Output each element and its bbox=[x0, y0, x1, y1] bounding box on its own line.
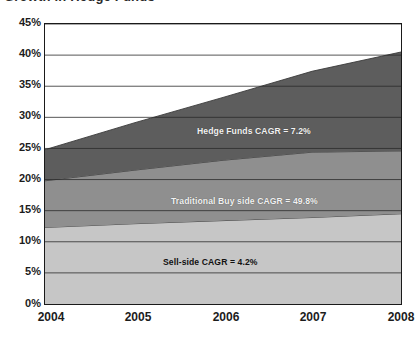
annotation-sell-side: Sell-side CAGR = 4.2% bbox=[163, 257, 258, 267]
plot-area: Hedge Funds CAGR = 7.2% Traditional Buy … bbox=[44, 23, 402, 305]
y-axis: 45% 40% 35% 30% 25% 20% 15% 10% 5% 0% bbox=[0, 0, 41, 348]
x-tick-label-2006: 2006 bbox=[201, 310, 251, 324]
y-tick-label-25: 25% bbox=[1, 142, 41, 153]
y-tick-label-45: 45% bbox=[1, 17, 41, 28]
annotation-traditional-buy-side: Traditional Buy side CAGR = 49.8% bbox=[171, 196, 318, 206]
x-tick-label-2007: 2007 bbox=[288, 310, 338, 324]
y-tick-label-30: 30% bbox=[1, 110, 41, 121]
plot-frame: Hedge Funds CAGR = 7.2% Traditional Buy … bbox=[44, 23, 402, 305]
y-tick-label-35: 35% bbox=[1, 79, 41, 90]
y-tick-label-10: 10% bbox=[1, 235, 41, 246]
x-tick-label-2004: 2004 bbox=[26, 310, 76, 324]
y-tick-label-0: 0% bbox=[1, 298, 41, 309]
x-tick-label-2005: 2005 bbox=[113, 310, 163, 324]
partial-title-strip: Growth in Hedge Funds bbox=[0, 0, 413, 9]
annotation-hedge-funds: Hedge Funds CAGR = 7.2% bbox=[197, 126, 311, 136]
y-tick-label-20: 20% bbox=[1, 173, 41, 184]
y-tick-label-40: 40% bbox=[1, 48, 41, 59]
y-tick-label-5: 5% bbox=[1, 266, 41, 277]
y-tick-label-15: 15% bbox=[1, 204, 41, 215]
x-tick-label-2008: 2008 bbox=[376, 310, 419, 324]
